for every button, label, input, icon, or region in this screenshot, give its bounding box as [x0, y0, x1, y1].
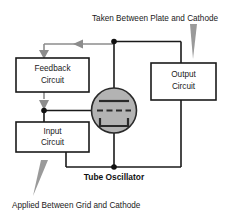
callout-wedge-top-icon	[190, 24, 197, 59]
block-feedback-circuit-label-line1: Feedback	[35, 64, 72, 73]
block-feedback-circuit-label-line2: Circuit	[41, 76, 65, 85]
feedback-arrow-left-icon	[73, 40, 83, 49]
block-input-circuit-label-line2: Circuit	[41, 138, 65, 147]
diagram-caption: Tube Oscillator	[84, 172, 145, 182]
block-output-circuit[interactable]: Output Circuit	[151, 63, 216, 100]
block-output-circuit-label-line1: Output	[171, 70, 196, 79]
block-input-circuit[interactable]: Input Circuit	[16, 122, 89, 152]
vacuum-tube-symbol[interactable]	[92, 88, 137, 133]
tube-oscillator-diagram: Feedback Circuit Output Circuit Input Ci…	[0, 0, 226, 224]
block-output-circuit-label-line2: Circuit	[172, 82, 196, 91]
junction-dot-cathode-bottom	[111, 164, 117, 170]
block-feedback-circuit-box	[16, 58, 89, 92]
diagram-canvas: Feedback Circuit Output Circuit Input Ci…	[0, 0, 226, 224]
block-input-circuit-label-line1: Input	[43, 127, 62, 136]
junction-dot-plate-top	[111, 39, 117, 45]
callout-label-bottom: Applied Between Grid and Cathode	[12, 201, 141, 210]
callout-label-top: Taken Between Plate and Cathode	[92, 14, 219, 23]
callout-wedge-bottom-icon	[33, 160, 48, 196]
block-feedback-circuit[interactable]: Feedback Circuit	[16, 58, 89, 92]
junction-dot-grid	[41, 108, 47, 114]
